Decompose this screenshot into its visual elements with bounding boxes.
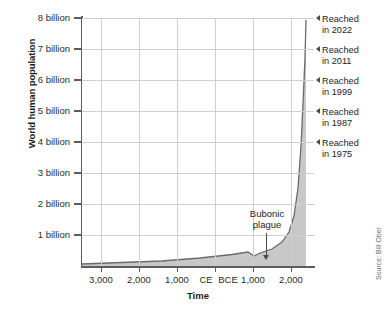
annotation-reached-1975: Reached in 1975: [316, 138, 359, 159]
gridline-horizontal: [82, 173, 314, 174]
left-arrow-icon: [316, 77, 320, 83]
source-credit: Source: Bill Ober: [375, 209, 382, 299]
y-tick-label: 2 billion: [0, 198, 70, 209]
y-tick-mark: [74, 234, 82, 236]
gridline-horizontal: [82, 142, 314, 143]
y-tick-label: 5 billion: [0, 105, 70, 116]
x-tick-label-ce: CE: [199, 274, 212, 285]
x-axis-line: [81, 266, 315, 268]
gridline-vertical: [139, 18, 140, 266]
annotation-reached-1999: Reached in 1999: [316, 76, 359, 97]
gridline-horizontal: [82, 80, 314, 81]
annotation-label: Reached in 1975: [322, 138, 359, 159]
y-tick-mark: [74, 141, 82, 143]
y-tick-mark: [74, 79, 82, 81]
bubonic-plague-label: Bubonic plague: [236, 208, 298, 230]
x-tick-label: 1,000: [241, 274, 265, 285]
left-arrow-icon: [316, 139, 320, 145]
annotation-reached-2011: Reached in 2011: [316, 45, 359, 66]
y-tick-label: 6 billion: [0, 74, 70, 85]
x-tick-mark: [139, 266, 140, 272]
gridline-horizontal: [82, 49, 314, 50]
x-tick-mark: [253, 266, 254, 272]
x-tick-mark: [101, 266, 102, 272]
y-tick-mark: [74, 203, 82, 205]
gridline-vertical: [177, 18, 178, 266]
x-tick-label-bce: BCE: [218, 274, 238, 285]
x-tick-mark: [177, 266, 178, 272]
annotation-reached-2022: Reached in 2022: [316, 14, 359, 35]
y-tick-mark: [74, 17, 82, 19]
x-tick-label: 2,000: [279, 274, 303, 285]
bubonic-plague-arrow-icon: [266, 233, 267, 255]
y-tick-label: 1 billion: [0, 229, 70, 240]
gridline-horizontal: [82, 18, 314, 19]
y-tick-label: 8 billion: [0, 12, 70, 23]
population-growth-chart: World human population 8 billion 7 billi…: [0, 0, 389, 318]
y-tick-label: 7 billion: [0, 43, 70, 54]
y-tick-label: 4 billion: [0, 136, 70, 147]
gridline-horizontal: [82, 204, 314, 205]
y-tick-mark: [74, 48, 82, 50]
gridline-vertical: [215, 18, 216, 266]
annotation-label: Reached in 1987: [322, 107, 359, 128]
annotation-label: Reached in 2022: [322, 14, 359, 35]
gridline-horizontal: [82, 111, 314, 112]
left-arrow-icon: [316, 108, 320, 114]
x-tick-label: 1,000: [165, 274, 189, 285]
x-tick-label: 2,000: [127, 274, 151, 285]
left-arrow-icon: [316, 46, 320, 52]
y-tick-mark: [74, 172, 82, 174]
gridline-horizontal: [82, 235, 314, 236]
annotation-label: Reached in 1999: [322, 76, 359, 97]
left-arrow-icon: [316, 15, 320, 21]
y-tick-mark: [74, 110, 82, 112]
x-tick-mark: [215, 266, 216, 272]
x-tick-label: 3,000: [89, 274, 113, 285]
x-axis-title: Time: [82, 290, 314, 301]
gridline-vertical: [101, 18, 102, 266]
x-tick-mark: [291, 266, 292, 272]
y-tick-label: 3 billion: [0, 167, 70, 178]
annotation-reached-1987: Reached in 1987: [316, 107, 359, 128]
annotation-label: Reached in 2011: [322, 45, 359, 66]
